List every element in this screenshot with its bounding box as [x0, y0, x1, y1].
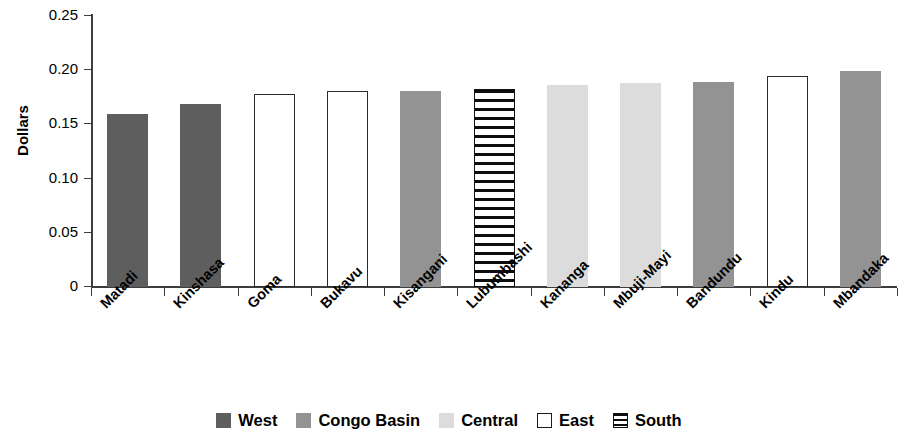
bar-kindu [767, 76, 808, 287]
bar-bukavu [327, 91, 368, 287]
x-tick-mark [604, 288, 605, 296]
x-tick-mark [677, 288, 678, 296]
x-tick-mark [531, 288, 532, 296]
legend-item: South [613, 412, 682, 429]
legend-item: Central [439, 412, 518, 429]
legend-label: East [559, 412, 594, 429]
legend-swatch [613, 413, 628, 428]
y-tick-label: 0.20 [0, 60, 78, 77]
x-tick-mark [164, 288, 165, 296]
legend-label: West [238, 412, 277, 429]
legend-swatch [216, 413, 231, 428]
plot-area [91, 15, 897, 287]
bar-chart: Dollars 0.250.200.150.100.050 MatadiKins… [0, 0, 898, 442]
y-tick-label: 0.10 [0, 169, 78, 186]
legend-label: Central [461, 412, 518, 429]
y-tick-label: 0.05 [0, 223, 78, 240]
legend-item: West [216, 412, 277, 429]
x-tick-mark [457, 288, 458, 296]
legend-label: Congo Basin [318, 412, 420, 429]
x-tick-mark [824, 288, 825, 296]
legend-swatch [537, 413, 552, 428]
bar-matadi [107, 114, 148, 287]
legend-label: South [635, 412, 682, 429]
x-tick-mark [91, 288, 92, 296]
x-tick-mark [750, 288, 751, 296]
y-tick-label: 0.15 [0, 114, 78, 131]
bar-goma [254, 94, 295, 287]
legend-swatch [296, 413, 311, 428]
legend-item: East [537, 412, 594, 429]
legend-swatch [439, 413, 454, 428]
x-tick-mark [238, 288, 239, 296]
legend-item: Congo Basin [296, 412, 420, 429]
y-tick-label: 0.25 [0, 6, 78, 23]
chart-legend: WestCongo BasinCentralEastSouth [0, 412, 898, 429]
x-tick-mark [311, 288, 312, 296]
y-tick-label: 0 [0, 277, 78, 294]
x-tick-mark [384, 288, 385, 296]
bar-kananga [547, 85, 588, 287]
